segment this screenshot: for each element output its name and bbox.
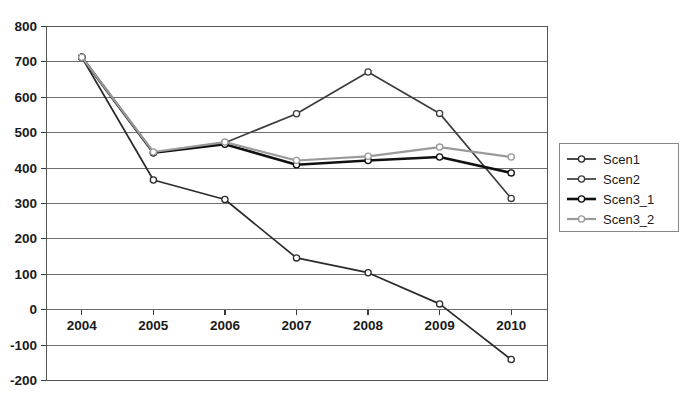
chart-canvas: 8007006005004003002001000-100-200 200420…	[0, 0, 684, 404]
legend: Scen1Scen2Scen3_1Scen3_2	[560, 144, 679, 232]
legend-label: Scen2	[603, 172, 640, 187]
y-tick-label: -100	[10, 338, 37, 353]
series-line	[82, 57, 511, 198]
data-point	[365, 69, 371, 75]
x-tick-label: 2007	[281, 318, 311, 333]
data-point	[365, 153, 371, 159]
y-tick-label: 500	[14, 125, 37, 140]
x-tick-label: 2006	[210, 318, 241, 333]
data-point	[79, 54, 85, 60]
series-Scen3_2	[79, 54, 515, 163]
y-tick-label: 100	[14, 267, 37, 282]
data-point	[293, 255, 299, 261]
y-tick-labels: 8007006005004003002001000-100-200	[10, 19, 37, 388]
data-point	[437, 301, 443, 307]
data-point	[293, 157, 299, 163]
y-tick-label: -200	[10, 373, 37, 388]
x-tick-labels: 2004200520062007200820092010	[67, 310, 526, 334]
legend-marker	[578, 216, 584, 222]
data-point	[437, 144, 443, 150]
x-tick-label: 2010	[496, 318, 526, 333]
series-Scen1	[79, 54, 515, 363]
y-tick-label: 800	[14, 19, 37, 34]
legend-marker	[578, 196, 584, 202]
y-tick-label: 0	[29, 302, 37, 317]
series-group	[79, 54, 515, 363]
series-Scen2	[79, 54, 515, 201]
data-point	[508, 170, 514, 176]
legend-label: Scen3_1	[603, 192, 654, 207]
data-point	[222, 139, 228, 145]
data-point	[150, 149, 156, 155]
x-tick-label: 2004	[67, 318, 98, 333]
x-tick-label: 2005	[138, 318, 169, 333]
legend-marker	[578, 156, 584, 162]
legend-label: Scen1	[603, 152, 640, 167]
y-tick-label: 700	[14, 54, 37, 69]
data-point	[437, 110, 443, 116]
y-tick-label: 400	[14, 161, 37, 176]
y-tick-label: 300	[14, 196, 37, 211]
x-tick-label: 2009	[425, 318, 455, 333]
data-point	[293, 111, 299, 117]
data-point	[508, 154, 514, 160]
data-point	[222, 196, 228, 202]
y-tick-label: 200	[14, 231, 37, 246]
data-point	[365, 270, 371, 276]
x-tick-label: 2008	[353, 318, 384, 333]
data-point	[150, 177, 156, 183]
data-point	[508, 356, 514, 362]
data-point	[508, 195, 514, 201]
legend-label: Scen3_2	[603, 212, 654, 227]
legend-marker	[578, 176, 584, 182]
y-tick-label: 600	[14, 90, 37, 105]
y-axis	[41, 26, 47, 381]
line-chart: 8007006005004003002001000-100-200 200420…	[0, 0, 684, 404]
data-point	[437, 154, 443, 160]
